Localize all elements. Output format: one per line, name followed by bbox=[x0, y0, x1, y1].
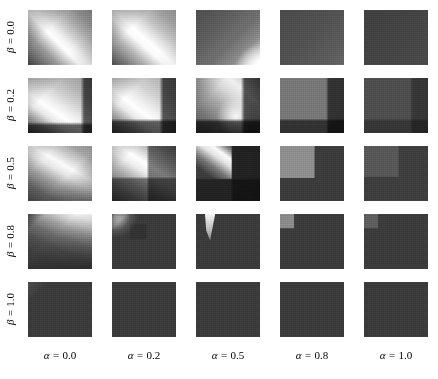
col-label-prefix: α = bbox=[128, 349, 147, 361]
heatmap-grid-figure: β = 0.0 β = 0.2 β = 0.5 β = 0.8 β = 1.0 bbox=[0, 0, 438, 379]
heatmap-panel-r2c4 bbox=[364, 146, 428, 201]
row-label-value: 0.5 bbox=[4, 157, 16, 171]
heatmap-panel-r1c1 bbox=[112, 78, 176, 133]
col-label-alpha-0: α = 0.0 bbox=[28, 349, 92, 361]
heatmap-panel-r1c4 bbox=[364, 78, 428, 133]
heatmap-panel-r2c1 bbox=[112, 146, 176, 201]
col-label-value: 0.8 bbox=[314, 349, 328, 361]
heatmap-panel-r4c4 bbox=[364, 282, 428, 337]
heatmap-panel-r2c0 bbox=[28, 146, 92, 201]
col-label-value: 0.2 bbox=[146, 349, 160, 361]
heatmap-panel-r1c3 bbox=[280, 78, 344, 133]
col-label-prefix: α = bbox=[296, 349, 315, 361]
heatmap-panel-r3c1 bbox=[112, 214, 176, 269]
heatmap-panel-r1c0 bbox=[28, 78, 92, 133]
row-label-prefix: β = bbox=[4, 307, 16, 325]
heatmap-panel-r4c3 bbox=[280, 282, 344, 337]
col-label-alpha-2: α = 0.5 bbox=[196, 349, 260, 361]
row-label-beta-2: β = 0.5 bbox=[4, 142, 16, 204]
heatmap-panel-r3c3 bbox=[280, 214, 344, 269]
heatmap-panel-r0c0 bbox=[28, 10, 92, 65]
col-label-value: 0.0 bbox=[62, 349, 76, 361]
heatmap-panel-r4c2 bbox=[196, 282, 260, 337]
row-label-prefix: β = bbox=[4, 35, 16, 53]
col-label-value: 1.0 bbox=[398, 349, 412, 361]
col-label-alpha-3: α = 0.8 bbox=[280, 349, 344, 361]
col-label-alpha-1: α = 0.2 bbox=[112, 349, 176, 361]
row-label-value: 0.2 bbox=[4, 89, 16, 103]
heatmap-panel-r0c4 bbox=[364, 10, 428, 65]
row-label-prefix: β = bbox=[4, 239, 16, 257]
row-label-value: 0.8 bbox=[4, 225, 16, 239]
col-label-alpha-4: α = 1.0 bbox=[364, 349, 428, 361]
heatmap-panel-r3c2 bbox=[196, 214, 260, 269]
heatmap-panel-r0c2 bbox=[196, 10, 260, 65]
row-label-beta-4: β = 1.0 bbox=[4, 278, 16, 340]
heatmap-panel-r4c1 bbox=[112, 282, 176, 337]
row-label-prefix: β = bbox=[4, 171, 16, 189]
heatmap-panel-r3c0 bbox=[28, 214, 92, 269]
col-label-value: 0.5 bbox=[230, 349, 244, 361]
row-label-beta-1: β = 0.2 bbox=[4, 74, 16, 136]
heatmap-panel-r3c4 bbox=[364, 214, 428, 269]
heatmap-panel-r0c3 bbox=[280, 10, 344, 65]
row-label-prefix: β = bbox=[4, 103, 16, 121]
row-label-beta-3: β = 0.8 bbox=[4, 210, 16, 272]
heatmap-panel-r2c2 bbox=[196, 146, 260, 201]
heatmap-panel-r4c0 bbox=[28, 282, 92, 337]
heatmap-panel-r0c1 bbox=[112, 10, 176, 65]
row-label-value: 1.0 bbox=[4, 293, 16, 307]
row-label-beta-0: β = 0.0 bbox=[4, 6, 16, 68]
col-label-prefix: α = bbox=[212, 349, 231, 361]
heatmap-panel-r1c2 bbox=[196, 78, 260, 133]
col-label-prefix: α = bbox=[380, 349, 399, 361]
row-label-value: 0.0 bbox=[4, 21, 16, 35]
col-label-prefix: α = bbox=[44, 349, 63, 361]
heatmap-panel-r2c3 bbox=[280, 146, 344, 201]
